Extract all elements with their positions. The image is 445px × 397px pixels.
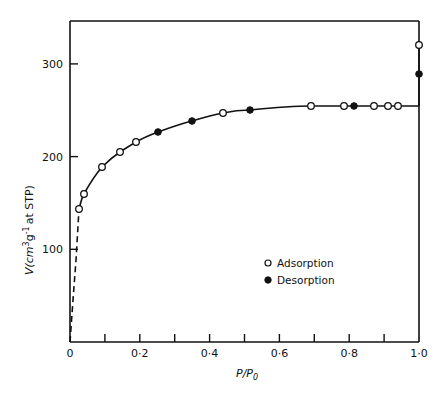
- adsorption-points: [76, 42, 423, 213]
- adsorption-point: [99, 164, 106, 171]
- y-tick-label: 100: [42, 243, 63, 256]
- adsorption-point: [81, 191, 88, 198]
- x-tick-label: 0·8: [340, 347, 358, 360]
- isotherm-curve: [79, 106, 419, 209]
- plot-frame: [70, 21, 419, 342]
- x-tick-labels: 0 0·2 0·4 0·6 0·8 1·0: [67, 347, 428, 360]
- adsorption-point: [371, 103, 378, 110]
- y-axis-title: V(cm3g-1at STP): [22, 185, 36, 275]
- adsorption-point: [76, 206, 83, 213]
- desorption-point: [416, 71, 423, 78]
- x-tick-label: 0·2: [131, 347, 149, 360]
- desorption-points: [155, 71, 423, 136]
- x-tick-label: 0·4: [201, 347, 219, 360]
- adsorption-point: [117, 149, 124, 156]
- legend-label-desorption: Desorption: [277, 274, 335, 286]
- open-circle-icon: [265, 260, 271, 266]
- extrapolation-dashed-line: [70, 209, 79, 342]
- x-axis-title: P/P0: [236, 367, 258, 382]
- legend: Adsorption Desorption: [265, 257, 335, 286]
- adsorption-point: [308, 103, 315, 110]
- y-axis-ticks: [70, 64, 78, 249]
- adsorption-point: [395, 103, 402, 110]
- adsorption-point: [133, 139, 140, 146]
- desorption-point: [155, 129, 162, 136]
- filled-circle-icon: [265, 277, 271, 283]
- adsorption-point: [416, 42, 423, 49]
- isotherm-chart: 0 0·2 0·4 0·6 0·8 1·0 100 200 300 P/P0 V…: [0, 0, 445, 397]
- adsorption-point: [341, 103, 348, 110]
- x-tick-label: 0: [67, 347, 74, 360]
- adsorption-point: [220, 110, 227, 117]
- desorption-point: [247, 107, 254, 114]
- adsorption-point: [385, 103, 392, 110]
- y-tick-label: 200: [42, 151, 63, 164]
- legend-label-adsorption: Adsorption: [277, 257, 334, 269]
- y-tick-labels: 100 200 300: [42, 58, 63, 256]
- desorption-point: [351, 103, 358, 110]
- x-tick-label: 0·6: [271, 347, 289, 360]
- x-tick-label: 1·0: [410, 347, 428, 360]
- x-axis-ticks: [105, 334, 384, 342]
- desorption-point: [189, 118, 196, 125]
- y-tick-label: 300: [42, 58, 63, 71]
